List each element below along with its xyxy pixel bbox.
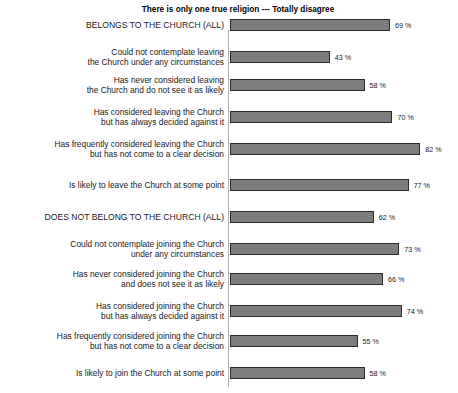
- bar: [230, 335, 358, 347]
- bar: [230, 143, 420, 155]
- bar-row: Has considered leaving the Church but ha…: [0, 110, 458, 124]
- plot-area: BELONGS TO THE CHURCH (ALL)69 %Could not…: [0, 28, 458, 388]
- bar: [230, 305, 402, 317]
- bar-row: Could not contemplate leaving the Church…: [0, 50, 458, 64]
- bar-row: Has never considered leaving the Church …: [0, 78, 458, 92]
- bar-row: Is likely to join the Church at some poi…: [0, 366, 458, 380]
- bar-category-label: Could not contemplate joining the Church…: [70, 239, 224, 260]
- bar-row: Could not contemplate joining the Church…: [0, 242, 458, 256]
- bar-row: BELONGS TO THE CHURCH (ALL)69 %: [0, 18, 458, 32]
- bar-value-label: 66 %: [388, 275, 404, 284]
- bar-value-label: 73 %: [404, 245, 420, 254]
- bar: [230, 79, 365, 91]
- bar-category-label: Has never considered leaving the Church …: [87, 75, 224, 96]
- bar: [230, 211, 374, 223]
- bar-row: DOES NOT BELONG TO THE CHURCH (ALL)62 %: [0, 210, 458, 224]
- bar-category-label: BELONGS TO THE CHURCH (ALL): [86, 20, 224, 30]
- bar-category-label: Has frequently considered joining the Ch…: [57, 331, 224, 352]
- bar-value-label: 43 %: [335, 53, 351, 62]
- bar: [230, 273, 383, 285]
- bar-row: Has frequently considered leaving the Ch…: [0, 142, 458, 156]
- bar-row: Has considered joining the Church but ha…: [0, 304, 458, 318]
- bar: [230, 111, 392, 123]
- bar: [230, 179, 409, 191]
- bar-value-label: 74 %: [407, 307, 423, 316]
- bar: [230, 51, 330, 63]
- bar-category-label: Has never considered joining the Church …: [73, 269, 224, 290]
- bar-category-label: Has considered leaving the Church but ha…: [94, 107, 224, 128]
- bar-value-label: 62 %: [379, 213, 395, 222]
- bar-value-label: 69 %: [395, 21, 411, 30]
- bar-category-label: Is likely to join the Church at some poi…: [76, 368, 224, 378]
- bar-value-label: 58 %: [370, 369, 386, 378]
- bar-category-label: DOES NOT BELONG TO THE CHURCH (ALL): [45, 212, 224, 222]
- bar-category-label: Has frequently considered leaving the Ch…: [55, 139, 224, 160]
- bar-value-label: 55 %: [363, 337, 379, 346]
- bar: [230, 243, 399, 255]
- bar-category-label: Could not contemplate leaving the Church…: [88, 47, 224, 68]
- bar-category-label: Is likely to leave the Church at some po…: [69, 180, 224, 190]
- bar: [230, 367, 365, 379]
- bar-value-label: 82 %: [425, 145, 441, 154]
- bar-row: Is likely to leave the Church at some po…: [0, 178, 458, 192]
- bar-category-label: Has considered joining the Church but ha…: [96, 301, 224, 322]
- bar-row: Has never considered joining the Church …: [0, 272, 458, 286]
- bar-chart: There is only one true religion --- Tota…: [0, 0, 458, 393]
- bar-value-label: 70 %: [397, 113, 413, 122]
- bar: [230, 19, 390, 31]
- bar-row: Has frequently considered joining the Ch…: [0, 334, 458, 348]
- bar-value-label: 58 %: [370, 81, 386, 90]
- bar-value-label: 77 %: [414, 181, 430, 190]
- chart-title: There is only one true religion --- Tota…: [0, 5, 458, 14]
